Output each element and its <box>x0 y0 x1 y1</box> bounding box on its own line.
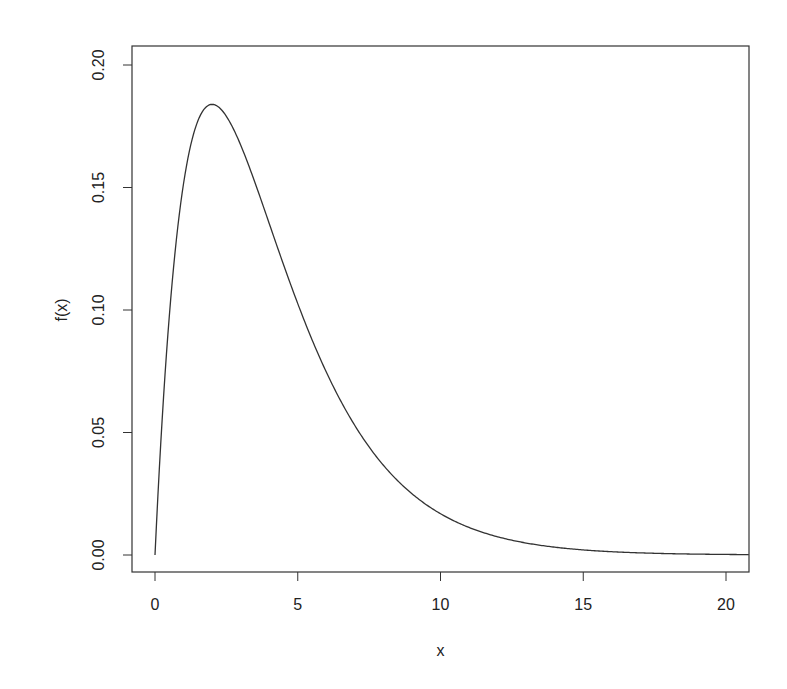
y-tick-label: 0.20 <box>90 49 107 80</box>
y-tick-label: 0.05 <box>90 417 107 448</box>
x-axis-title: x <box>437 642 445 659</box>
x-tick-label: 20 <box>717 596 735 613</box>
x-tick-label: 5 <box>293 596 302 613</box>
y-tick-label: 0.15 <box>90 172 107 203</box>
x-tick-label: 10 <box>432 596 450 613</box>
chart-canvas: 05101520 0.000.050.100.150.20 x f(x) <box>0 0 787 689</box>
x-tick-label: 0 <box>151 596 160 613</box>
plot-frame <box>132 46 749 572</box>
y-axis-title: f(x) <box>53 298 70 321</box>
x-tick-label: 15 <box>574 596 592 613</box>
y-axis: 0.000.050.100.150.20 <box>90 49 132 570</box>
density-curve <box>155 104 749 555</box>
y-tick-label: 0.00 <box>90 539 107 570</box>
y-tick-label: 0.10 <box>90 294 107 325</box>
x-axis: 05101520 <box>151 572 735 613</box>
